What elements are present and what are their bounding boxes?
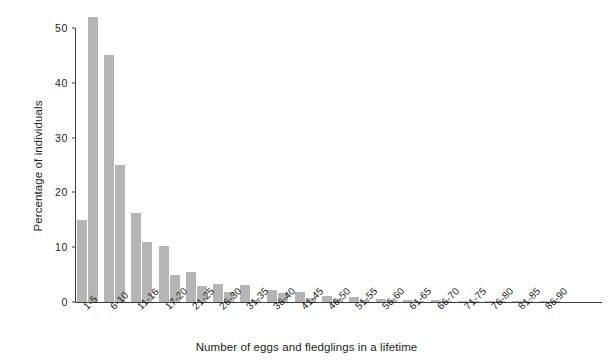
bar-group [458,14,480,302]
x-axis-title: Number of eggs and fledglings in a lifet… [0,341,613,353]
bar [88,17,98,302]
bar-group [376,14,398,302]
bar-group [159,14,181,302]
bars-container [76,14,601,302]
bar-group [267,14,289,302]
bar-group [403,14,425,302]
bar-group [213,14,235,302]
bar [77,220,87,302]
bar-group [431,14,453,302]
bar-group [104,14,126,302]
bar-group [77,14,99,302]
y-tick-mark [72,28,75,29]
bar-chart-figure: Percentage of individuals 01020304050 1-… [0,0,613,363]
bar [104,55,114,302]
y-tick-mark [72,247,75,248]
bar-group [539,14,561,302]
y-axis-title: Percentage of individuals [32,56,44,276]
bar [131,213,141,302]
y-tick-mark [72,82,75,83]
bar [115,165,125,302]
bar-group [186,14,208,302]
bar-group [512,14,534,302]
bar-group [485,14,507,302]
bar-group [131,14,153,302]
y-tick-mark [72,302,75,303]
bar [186,272,196,302]
bar-group [322,14,344,302]
bar-group [349,14,371,302]
y-tick-mark [72,192,75,193]
bar-group [240,14,262,302]
bar-group [295,14,317,302]
y-tick-mark [72,137,75,138]
